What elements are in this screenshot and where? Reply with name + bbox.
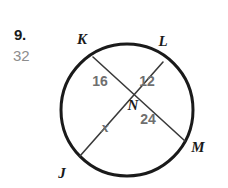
segment-label-nm: 24	[140, 111, 156, 127]
segment-label-nj: x	[100, 119, 109, 135]
segment-label-kn: 16	[92, 73, 108, 89]
point-label-j: J	[57, 165, 66, 181]
geometry-problem-figure: 9. 32 K L M J N 16 12 24 x	[0, 0, 228, 188]
segment-label-ln: 12	[139, 73, 155, 89]
point-label-l: L	[157, 33, 167, 49]
point-label-m: M	[190, 139, 205, 155]
point-label-n: N	[127, 97, 140, 113]
point-label-k: K	[76, 31, 88, 47]
circle-diagram: K L M J N 16 12 24 x	[0, 0, 228, 188]
